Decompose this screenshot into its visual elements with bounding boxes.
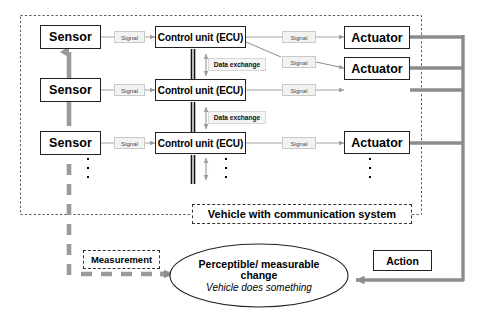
sensor-box-row1[interactable]: Sensor: [40, 25, 101, 49]
signal-label-row2-in: Signal: [114, 84, 145, 96]
signal-label-row3-out: Signal: [282, 137, 316, 149]
data-exchange-label-top: Data exchange: [208, 58, 266, 71]
data-bus-backbone: [192, 49, 195, 184]
measurement-label: Measurement: [83, 250, 160, 269]
sensor-box-row3[interactable]: Sensor: [40, 131, 101, 155]
signal-label-row1-out: Signal: [282, 31, 316, 43]
actuator-box-row3[interactable]: Actuator: [344, 131, 410, 154]
actuator-box-extra[interactable]: Actuator: [344, 57, 410, 80]
vehicle-boundary-label: Vehicle with communication system: [192, 204, 412, 224]
actuator-box-row1[interactable]: Actuator: [344, 26, 410, 49]
ecu-box-row2[interactable]: Control unit (ECU): [155, 79, 246, 101]
signal-label-row1-in: Signal: [114, 31, 145, 43]
ecu-box-row1[interactable]: Control unit (ECU): [155, 26, 246, 48]
ecu-box-row3[interactable]: Control unit (ECU): [155, 132, 246, 154]
signal-label-extra-actuator: Signal: [282, 56, 316, 68]
signal-label-row3-in: Signal: [114, 137, 145, 149]
sensor-box-row2[interactable]: Sensor: [40, 78, 101, 102]
data-exchange-label-bottom: Data exchange: [208, 111, 266, 124]
actuator-column-ellipsis-icon: [368, 158, 372, 178]
perceptible-change-text: Perceptible/ measurable change Vehicle d…: [178, 254, 340, 298]
change-line-3: Vehicle does something: [206, 282, 312, 293]
sensor-column-ellipsis-icon: [86, 158, 90, 178]
ecu-column-ellipsis-icon: [224, 158, 228, 178]
diagram-canvas: Sensor Signal Control unit (ECU) Signal …: [0, 0, 483, 327]
change-line-2: change: [241, 270, 278, 282]
action-label: Action: [373, 250, 432, 271]
signal-label-row2-out: Signal: [282, 84, 316, 96]
